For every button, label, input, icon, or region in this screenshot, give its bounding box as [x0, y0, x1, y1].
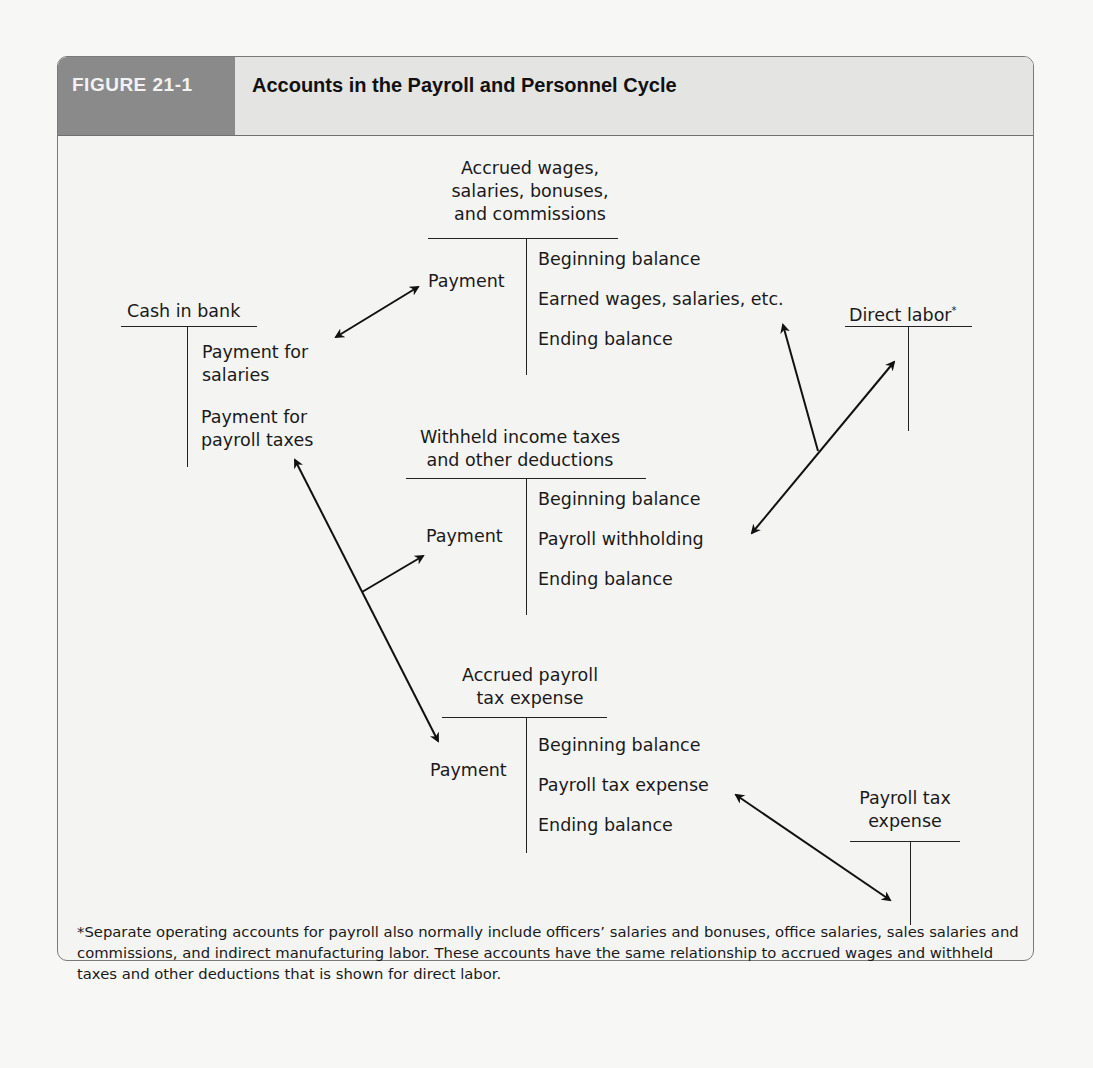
arrows-layer: [0, 0, 1093, 1068]
arrow-payroll-tax-expense: [736, 795, 890, 900]
diagram-canvas: Cash in bank Payment for salaries Paymen…: [0, 0, 1093, 1068]
arrow-branch-to-earned-wages: [783, 325, 818, 451]
arrow-branch-to-withheld: [362, 556, 423, 592]
arrow-cash-to-wages: [336, 287, 418, 337]
arrow-withheld-to-direct-labor: [752, 362, 894, 533]
arrow-cash-to-payroll-tax: [295, 460, 438, 741]
footnote: *Separate operating accounts for payroll…: [77, 921, 1027, 984]
